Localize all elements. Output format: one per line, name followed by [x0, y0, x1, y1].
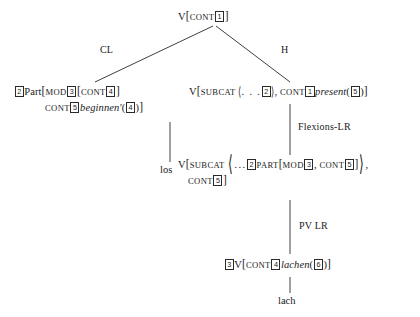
head-ellipsis: . . . [242, 86, 262, 97]
head-arg-index: 5 [351, 86, 360, 97]
mid-comma-1: , [314, 159, 317, 170]
node-right-head: V[SUBCAT ⟨. . .2⟩, CONT1present(5)] [189, 84, 368, 99]
mid-ellipsis: ... [235, 159, 247, 170]
mid-part-label: PART [257, 160, 279, 170]
particle-inner-cont-index: 4 [106, 86, 115, 97]
mid-angle-close: ⟩ [360, 159, 365, 169]
mid-inner-cont-label: CONT [319, 160, 344, 170]
head-angle-open: ⟨ [238, 87, 241, 97]
particle-inner-cont-label: CONT [81, 87, 106, 97]
syntax-tree-diagram: V[CONT1] CL H 2Part[MOD3[CONT4] CONT5beg… [0, 0, 420, 317]
bottom-arg-index: 6 [314, 259, 323, 270]
particle-arg-index: 4 [126, 102, 135, 113]
head-angle-close: ⟩ [271, 87, 274, 97]
bottom-index: 3 [225, 259, 234, 270]
mid-cont-label: CONT [188, 176, 213, 186]
particle-category: Part [24, 86, 41, 97]
mid-mod-index: 3 [304, 159, 313, 170]
mid-category: V [178, 159, 186, 170]
particle-line-1: 2Part[MOD3[CONT4] [14, 86, 120, 97]
root-category: V [178, 11, 186, 22]
head-close-bracket: ] [364, 85, 368, 97]
edge-root-to-head [216, 26, 290, 82]
node-left-particle: 2Part[MOD3[CONT4] CONT5beginnen'(4)] [14, 84, 189, 115]
bottom-cont-label: CONT [246, 260, 271, 270]
root-close-bracket: ] [225, 10, 229, 22]
head-comma: , [275, 86, 278, 97]
particle-inner-close: ] [116, 85, 120, 97]
bottom-cont-index: 4 [271, 259, 280, 270]
head-elem-index: 2 [262, 86, 271, 97]
mid-inner-cont-index: 5 [345, 159, 354, 170]
mid-elem-index: 2 [247, 159, 256, 170]
edge-label-h: H [281, 44, 288, 55]
head-cont-index: 1 [305, 86, 314, 97]
particle-arg-open: ( [122, 102, 126, 113]
particle-close-bracket: ] [139, 101, 143, 113]
particle-mod-index: 3 [67, 86, 76, 97]
root-cont-label: CONT [190, 12, 215, 22]
mid-line-2: CONT5] [178, 173, 418, 188]
head-arg-open: ( [346, 86, 350, 97]
node-root: V[CONT1] [178, 9, 229, 24]
mid-subcat-label: SUBCAT [190, 160, 225, 170]
edge-label-pv-lr: PV LR [299, 220, 328, 231]
head-subcat-label: SUBCAT [201, 87, 236, 97]
particle-cont-label: CONT [45, 103, 70, 113]
head-category: V [189, 86, 197, 97]
terminal-lach: lach [278, 295, 296, 306]
mid-cont-index: 5 [213, 175, 222, 186]
particle-line-2: CONT5beginnen'(4)] [14, 100, 189, 115]
particle-index: 2 [15, 86, 24, 97]
bottom-category: V [234, 259, 242, 270]
terminal-los: los [160, 164, 172, 175]
mid-close-bracket: ] [223, 174, 227, 186]
root-cont-index: 1 [215, 11, 224, 22]
edge-label-flexions-lr: Flexions-LR [298, 121, 351, 132]
node-mid-flexion: V[SUBCAT ⟨...2PART[MOD3, CONT5]⟩, CONT5] [178, 157, 418, 188]
mid-comma-2: , [366, 159, 369, 170]
particle-mod-label: MOD [46, 87, 67, 97]
bottom-close-bracket: ] [327, 258, 331, 270]
mid-part-close: ] [355, 158, 359, 170]
bottom-arg-open: ( [310, 259, 314, 270]
mid-angle-open: ⟨ [228, 159, 233, 169]
head-relation: present [315, 86, 346, 97]
mid-mod-label: MOD [283, 160, 304, 170]
bottom-relation: lachen [281, 259, 310, 270]
particle-cont-index: 5 [70, 102, 79, 113]
particle-relation: beginnen' [80, 102, 122, 113]
node-bottom-verb: 3V[CONT4lachen(6)] [224, 257, 331, 272]
edge-label-cl: CL [100, 44, 113, 55]
mid-line-1: V[SUBCAT ⟨...2PART[MOD3, CONT5]⟩, [178, 159, 368, 170]
head-cont-label: CONT [280, 87, 305, 97]
